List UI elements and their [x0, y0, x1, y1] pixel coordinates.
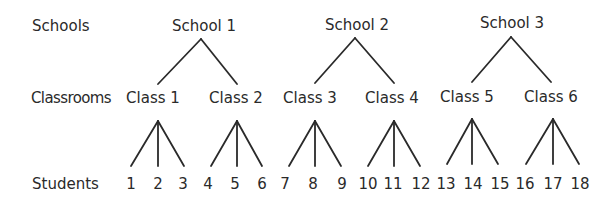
student-node: 12: [411, 177, 430, 192]
school-node: School 3: [480, 16, 544, 31]
student-node: 1: [126, 177, 136, 192]
class-5-branches: [447, 119, 498, 164]
class-3-branches: [289, 121, 341, 166]
student-node: 10: [358, 177, 377, 192]
class-node: Class 2: [209, 91, 263, 106]
class-node: Class 5: [440, 90, 494, 105]
student-node: 11: [383, 177, 402, 192]
row-label-schools: Schools: [32, 19, 90, 34]
student-node: 7: [280, 177, 290, 192]
class-1-branches: [131, 121, 184, 166]
student-node: 16: [515, 177, 534, 192]
school-1-branches: [158, 39, 237, 84]
school-2-branches: [315, 38, 394, 83]
class-node: Class 1: [126, 91, 180, 106]
student-node: 2: [153, 177, 163, 192]
class-node: Class 3: [283, 91, 337, 106]
student-node: 13: [436, 177, 455, 192]
student-node: 8: [308, 177, 318, 192]
school-3-branches: [472, 37, 551, 82]
student-node: 18: [570, 177, 589, 192]
class-6-branches: [526, 119, 579, 164]
student-node: 17: [543, 177, 562, 192]
student-node: 3: [178, 177, 188, 192]
student-node: 15: [490, 177, 509, 192]
student-node: 6: [257, 177, 267, 192]
student-node: 9: [337, 177, 347, 192]
school-node: School 1: [172, 19, 236, 34]
student-node: 5: [230, 177, 240, 192]
class-node: Class 4: [365, 91, 419, 106]
student-node: 14: [463, 177, 482, 192]
class-node: Class 6: [524, 90, 578, 105]
class-2-branches: [211, 121, 262, 166]
row-label-students: Students: [32, 177, 99, 192]
row-label-classrooms: Classrooms: [31, 91, 111, 106]
class-4-branches: [368, 121, 420, 166]
student-node: 4: [203, 177, 213, 192]
school-node: School 2: [325, 18, 389, 33]
